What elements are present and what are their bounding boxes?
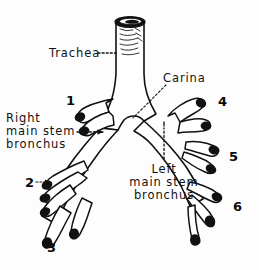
label-right-main-stem-bronchus: Right main stem bronchus bbox=[6, 112, 75, 151]
callout-number-5: 5 bbox=[229, 150, 238, 163]
callout-number-4: 4 bbox=[218, 95, 227, 108]
callout-number-2: 2 bbox=[25, 176, 34, 189]
label-right-main-stem-line-3: bronchus bbox=[6, 138, 75, 151]
callout-number-6: 6 bbox=[233, 200, 242, 213]
label-left-main-stem-line-3: bronchus bbox=[118, 189, 210, 202]
label-carina: Carina bbox=[163, 72, 206, 85]
callout-number-1: 1 bbox=[66, 94, 75, 107]
tracheobronchial-tree-figure: Trachea Carina Right main stem bronchus … bbox=[0, 0, 259, 270]
trachea-cut-end bbox=[115, 17, 145, 28]
trachea-lumen-shadow bbox=[125, 20, 139, 24]
callout-number-3: 3 bbox=[47, 241, 56, 254]
label-left-main-stem-bronchus: Left main stem bronchus bbox=[118, 163, 210, 202]
label-trachea: Trachea bbox=[49, 47, 100, 60]
